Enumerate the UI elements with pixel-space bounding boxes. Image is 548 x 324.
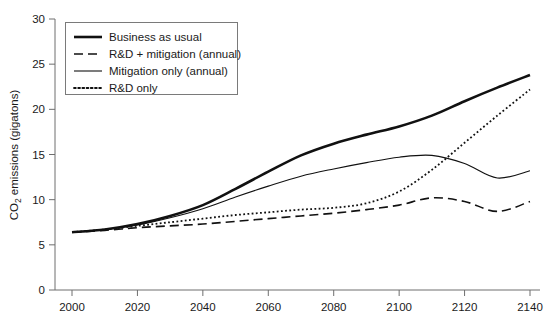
x-tick-label: 2060	[255, 301, 281, 313]
x-tick-label: 2100	[386, 301, 412, 313]
y-axis-title-pre: CO	[8, 203, 20, 220]
y-tick-label: 0	[39, 284, 45, 296]
legend-label-1: Business as usual	[109, 31, 202, 43]
y-tick-label: 30	[32, 13, 45, 25]
y-tick-label: 20	[32, 103, 45, 115]
x-tick-label: 2020	[125, 301, 151, 313]
chart-legend: Business as usualR&D + mitigation (annua…	[66, 23, 242, 95]
y-axis-title-post: emissions (gigatons)	[8, 90, 20, 199]
chart-canvas: 051015202530 CO2 emissions (gigatons) 20…	[0, 0, 548, 324]
co2-emissions-line-chart: 051015202530 CO2 emissions (gigatons) 20…	[0, 0, 548, 324]
legend-label-4: R&D only	[109, 82, 158, 94]
legend-label-2: R&D + mitigation (annual)	[109, 48, 241, 60]
x-tick-label: 2120	[452, 301, 478, 313]
x-tick-label: 2080	[321, 301, 347, 313]
y-tick-label: 5	[39, 239, 45, 251]
y-tick-label: 15	[32, 149, 45, 161]
x-tick-label: 2140	[517, 301, 543, 313]
y-tick-label: 25	[32, 58, 45, 70]
x-tick-label: 2040	[190, 301, 216, 313]
legend-label-3: Mitigation only (annual)	[109, 65, 228, 77]
x-tick-label: 2000	[59, 301, 85, 313]
y-tick-label: 10	[32, 194, 45, 206]
